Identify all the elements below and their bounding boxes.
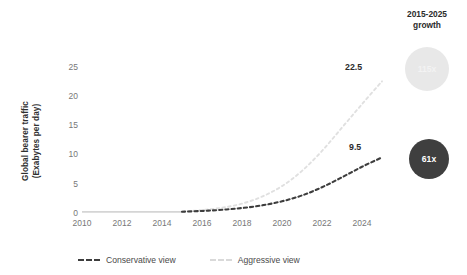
- conservative-growth-bubble: 61x: [409, 139, 449, 179]
- aggressive-growth-bubble-label: 115x: [418, 64, 437, 74]
- legend-label-conservative: Conservative view: [106, 255, 176, 265]
- plot-area: [82, 55, 382, 213]
- y-axis-title: Global bearer traffic (Exabytes per day): [14, 76, 48, 206]
- chart-legend: Conservative view Aggressive view: [78, 253, 300, 267]
- aggressive-growth-bubble: 115x: [405, 47, 449, 91]
- series-line-conservative-view: [182, 157, 382, 211]
- x-tick-label: 2020: [273, 218, 292, 228]
- y-tick-label: 15: [52, 120, 78, 130]
- aggressive-end-value-label: 22.5: [345, 62, 362, 72]
- legend-dash-icon-conservative: [78, 259, 100, 261]
- legend-item-conservative[interactable]: Conservative view: [78, 255, 176, 265]
- legend-item-aggressive[interactable]: Aggressive view: [210, 255, 300, 265]
- y-tick-label: 10: [52, 149, 78, 159]
- x-tick-label: 2010: [73, 218, 92, 228]
- x-tick-label: 2022: [313, 218, 332, 228]
- growth-panel-title: 2015-2025 growth: [389, 9, 465, 30]
- y-tick-label: 25: [52, 62, 78, 72]
- y-axis-tick-labels: 0510152025: [52, 55, 78, 213]
- growth-title-line-2: growth: [389, 20, 465, 31]
- chart-root: Global bearer traffic (Exabytes per day)…: [0, 0, 467, 275]
- conservative-end-value-label: 9.5: [349, 142, 361, 152]
- legend-label-aggressive: Aggressive view: [238, 255, 300, 265]
- series-lines: [82, 55, 382, 213]
- legend-dash-icon-aggressive: [210, 259, 232, 261]
- x-tick-label: 2018: [233, 218, 252, 228]
- y-tick-label: 0: [52, 208, 78, 218]
- y-tick-label: 5: [52, 179, 78, 189]
- x-axis-tick-labels: 20102012201420162018202020222024: [82, 218, 382, 232]
- x-tick-label: 2016: [193, 218, 212, 228]
- x-tick-label: 2012: [113, 218, 132, 228]
- growth-title-line-1: 2015-2025: [389, 9, 465, 20]
- y-tick-label: 20: [52, 91, 78, 101]
- y-axis-title-line-1: Global bearer traffic: [20, 101, 31, 181]
- y-axis-title-line-2: (Exabytes per day): [31, 101, 42, 181]
- x-tick-label: 2014: [153, 218, 172, 228]
- conservative-growth-bubble-label: 61x: [422, 154, 436, 164]
- x-tick-label: 2024: [353, 218, 372, 228]
